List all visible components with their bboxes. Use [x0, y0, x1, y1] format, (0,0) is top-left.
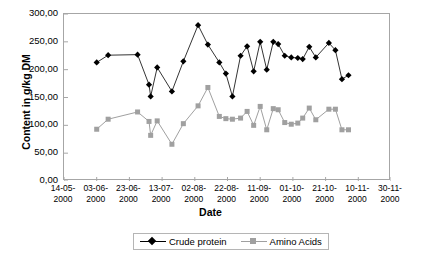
legend-label: Crude protein	[169, 236, 227, 247]
legend-swatch	[140, 241, 166, 242]
series-canvas	[64, 14, 391, 181]
y-axis-tick-label: 250,00	[10, 36, 58, 46]
legend-swatch	[241, 241, 267, 242]
data-point-marker	[181, 121, 186, 126]
data-point-marker	[105, 52, 111, 58]
plot-area	[63, 13, 390, 180]
data-point-marker	[346, 127, 351, 132]
data-point-marker	[295, 55, 301, 61]
data-point-marker	[216, 59, 222, 65]
y-axis-tick-label: 100,00	[10, 119, 58, 129]
data-point-marker	[94, 59, 100, 65]
data-point-marker	[106, 117, 111, 122]
data-point-marker	[251, 123, 256, 128]
data-point-marker	[135, 109, 140, 114]
y-axis-tick-label: 150,00	[10, 92, 58, 102]
data-point-marker	[307, 106, 312, 111]
data-point-marker	[237, 53, 243, 59]
data-point-marker	[251, 68, 257, 74]
data-point-marker	[276, 107, 281, 112]
data-point-marker	[289, 122, 294, 127]
series-line	[97, 25, 349, 96]
x-axis-title: Date	[0, 206, 421, 218]
data-point-marker	[148, 93, 154, 99]
data-point-marker	[282, 53, 288, 59]
y-axis-tick-label: 300,00	[10, 8, 58, 18]
data-point-marker	[264, 127, 269, 132]
y-axis-tick-labels: 300,00250,00200,00150,00100,0050,000,00	[8, 0, 58, 262]
data-point-marker	[205, 42, 211, 48]
data-point-marker	[147, 119, 152, 124]
data-point-marker	[154, 64, 160, 70]
data-point-marker	[169, 142, 174, 147]
legend-label: Amino Acids	[270, 236, 322, 247]
data-point-marker	[295, 121, 300, 126]
y-axis-tick-label: 50,00	[10, 147, 58, 157]
data-point-marker	[238, 116, 243, 121]
data-point-marker	[94, 127, 99, 132]
data-point-marker	[223, 116, 228, 121]
data-point-marker	[339, 127, 344, 132]
data-point-marker	[146, 82, 152, 88]
data-point-marker	[271, 106, 276, 111]
data-point-marker	[288, 54, 294, 60]
x-axis-tick-label: 30-11-2000	[367, 183, 413, 204]
data-point-marker	[313, 117, 318, 122]
data-point-marker	[148, 133, 153, 138]
data-point-marker	[244, 43, 250, 49]
y-axis-tick-label: 200,00	[10, 64, 58, 74]
data-point-marker	[306, 44, 312, 50]
data-point-marker	[264, 67, 270, 73]
data-point-marker	[169, 88, 175, 94]
legend-item[interactable]: Crude protein	[140, 236, 227, 247]
data-point-marker	[223, 70, 229, 76]
data-point-marker	[229, 93, 235, 99]
data-point-marker	[155, 118, 160, 123]
data-point-marker	[300, 116, 305, 121]
chart-legend: Crude proteinAmino Acids	[133, 233, 329, 250]
data-point-marker	[339, 76, 345, 82]
data-point-marker	[196, 103, 201, 108]
data-point-marker	[326, 107, 331, 112]
legend-item[interactable]: Amino Acids	[241, 236, 322, 247]
diamond-marker-icon	[148, 237, 156, 245]
data-point-marker	[180, 58, 186, 64]
data-point-marker	[195, 22, 201, 28]
data-point-marker	[230, 117, 235, 122]
data-point-marker	[257, 39, 263, 45]
data-point-marker	[217, 114, 222, 119]
data-point-marker	[300, 56, 306, 62]
data-point-marker	[345, 72, 351, 78]
data-point-marker	[205, 85, 210, 90]
data-point-marker	[134, 52, 140, 58]
data-point-marker	[245, 109, 250, 114]
square-marker-icon	[250, 238, 256, 244]
chart-container: Content in g/kg DM 300,00250,00200,00150…	[0, 0, 421, 262]
data-point-marker	[282, 120, 287, 125]
series-line	[97, 87, 349, 144]
data-point-marker	[258, 104, 263, 109]
data-point-marker	[333, 107, 338, 112]
